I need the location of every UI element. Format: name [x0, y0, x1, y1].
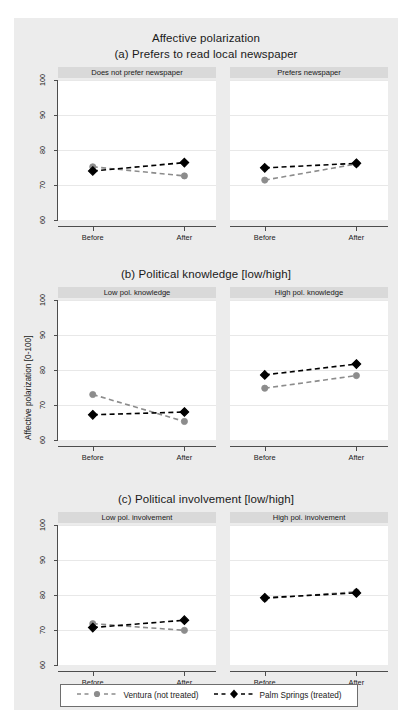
legend-diamond-marker-icon	[213, 686, 255, 706]
x-tick-mark	[265, 227, 266, 231]
figure-title: Affective polarization	[14, 32, 398, 44]
series-line	[93, 412, 185, 415]
series-line	[93, 167, 185, 176]
facet-strip-label: High pol. knowledge	[230, 287, 388, 298]
panel-group-c: (c) Political involvement [low/high]6070…	[14, 493, 398, 678]
legend-item[interactable]: Palm Springs (treated)	[213, 686, 342, 706]
facet-strip-label: Low pol. knowledge	[58, 287, 216, 298]
x-axis-line	[58, 446, 216, 447]
y-tick-label: 70	[38, 176, 47, 194]
legend-label: Palm Springs (treated)	[260, 691, 342, 700]
series-overlay	[58, 300, 216, 440]
facet-plot-area	[230, 525, 388, 665]
panel-caption: (a) Prefers to read local newspaper	[14, 48, 398, 60]
panel-caption: (b) Political knowledge [low/high]	[14, 268, 398, 280]
data-point-marker	[352, 360, 361, 369]
y-tick-label: 100	[38, 516, 47, 534]
series-overlay	[230, 80, 388, 220]
data-point-marker	[260, 164, 269, 173]
legend-key	[213, 686, 255, 702]
y-tick-label: 80	[38, 361, 47, 379]
data-point-marker	[181, 418, 187, 424]
data-point-marker	[180, 408, 189, 417]
series-line	[93, 624, 185, 631]
facet-plot-area	[230, 80, 388, 220]
data-point-marker	[180, 158, 189, 167]
x-tick-mark	[184, 227, 185, 231]
panel-group-a: (a) Prefers to read local newspaper60708…	[14, 48, 398, 268]
x-axis-line	[58, 226, 216, 227]
panel-group-b: (b) Political knowledge [low/high]Affect…	[14, 268, 398, 493]
facet-plot-area	[58, 80, 216, 220]
legend-circle-marker-icon	[76, 686, 118, 706]
x-tick-mark	[265, 672, 266, 676]
series-line	[265, 164, 357, 180]
y-tick-label: 60	[38, 211, 47, 229]
series-overlay	[58, 80, 216, 220]
x-tick-mark	[93, 227, 94, 231]
y-tick-label: 70	[38, 621, 47, 639]
x-tick-label: After	[159, 233, 209, 242]
y-tick-label: 80	[38, 141, 47, 159]
y-tick-label: 100	[38, 71, 47, 89]
series-line	[265, 364, 357, 375]
data-point-marker	[260, 594, 269, 603]
x-tick-mark	[184, 447, 185, 451]
y-tick-label: 60	[38, 431, 47, 449]
y-tick-label: 100	[38, 291, 47, 309]
series-line	[265, 376, 357, 389]
facet-plot-area	[58, 525, 216, 665]
x-tick-label: Before	[240, 233, 290, 242]
y-tick-label: 70	[38, 396, 47, 414]
x-axis-line	[230, 226, 388, 227]
series-line	[93, 395, 185, 422]
x-tick-mark	[184, 672, 185, 676]
data-point-marker	[352, 159, 361, 168]
data-point-marker	[352, 589, 361, 598]
facet-strip-label: Prefers newspaper	[230, 67, 388, 78]
facet-strip-label: High pol. involvement	[230, 512, 388, 523]
x-tick-label: After	[331, 453, 381, 462]
data-point-marker	[262, 177, 268, 183]
series-overlay	[58, 525, 216, 665]
x-tick-label: Before	[68, 453, 118, 462]
series-line	[265, 593, 357, 598]
data-point-marker	[181, 627, 187, 633]
facet-plot-area	[230, 300, 388, 440]
x-tick-label: Before	[240, 453, 290, 462]
x-tick-mark	[93, 447, 94, 451]
x-tick-mark	[265, 447, 266, 451]
y-tick-label: 80	[38, 586, 47, 604]
facet-strip-label: Low pol. involvement	[58, 512, 216, 523]
y-tick-label: 90	[38, 106, 47, 124]
data-point-marker	[88, 411, 97, 420]
y-tick-label: 90	[38, 551, 47, 569]
facet-strip-label: Does not prefer newspaper	[58, 67, 216, 78]
series-line	[93, 163, 185, 171]
x-tick-mark	[93, 672, 94, 676]
legend-label: Ventura (not treated)	[123, 691, 198, 700]
panel-caption: (c) Political involvement [low/high]	[14, 493, 398, 505]
data-point-marker	[90, 391, 96, 397]
data-point-marker	[353, 373, 359, 379]
data-point-marker	[262, 385, 268, 391]
x-axis-line	[58, 671, 216, 672]
y-tick-label: 60	[38, 656, 47, 674]
x-axis-line	[230, 446, 388, 447]
x-tick-mark	[356, 447, 357, 451]
data-point-marker	[180, 616, 189, 625]
y-tick-label: 90	[38, 326, 47, 344]
x-axis-line	[230, 671, 388, 672]
data-point-marker	[181, 173, 187, 179]
x-tick-mark	[356, 672, 357, 676]
legend-item[interactable]: Ventura (not treated)	[76, 686, 198, 706]
data-point-marker	[260, 371, 269, 380]
x-tick-label: After	[331, 233, 381, 242]
series-overlay	[230, 300, 388, 440]
x-tick-mark	[356, 227, 357, 231]
legend-key	[76, 686, 118, 702]
series-overlay	[230, 525, 388, 665]
x-tick-label: After	[159, 453, 209, 462]
x-tick-label: Before	[68, 233, 118, 242]
facet-plot-area	[58, 300, 216, 440]
